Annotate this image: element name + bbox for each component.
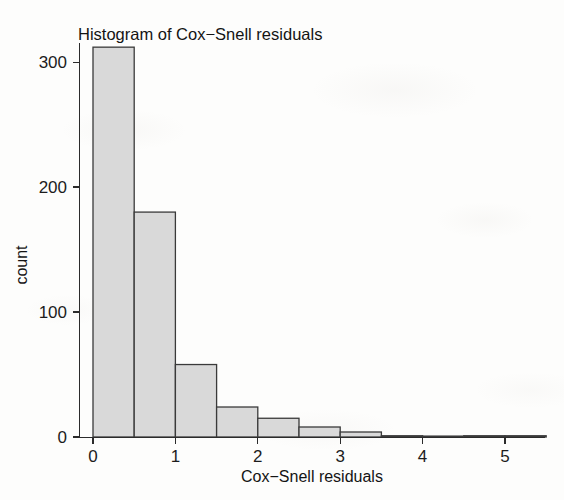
x-tick-label: 0 [88, 447, 97, 466]
x-tick-label: 3 [335, 447, 344, 466]
x-tick-label: 4 [418, 447, 427, 466]
histogram-bar [299, 427, 340, 437]
histogram-bar [340, 432, 381, 437]
histogram-bar [258, 418, 299, 437]
bars-group [93, 47, 546, 437]
x-tick-label: 1 [171, 447, 180, 466]
histogram-bar [175, 365, 216, 437]
y-tick-label: 100 [39, 303, 67, 322]
y-tick-label: 300 [39, 53, 67, 72]
histogram-plot: Histogram of Cox−Snell residuals 0100200… [0, 0, 564, 500]
x-tick-label: 2 [253, 447, 262, 466]
chart-title: Histogram of Cox−Snell residuals [78, 25, 322, 43]
y-axis-title: count [13, 245, 30, 285]
histogram-bar [93, 47, 134, 437]
y-tick-label: 0 [58, 428, 67, 447]
histogram-bar [134, 212, 175, 437]
x-axis-ticks: 012345 [88, 438, 509, 467]
histogram-bar [217, 407, 258, 437]
x-axis-title: Cox−Snell residuals [241, 468, 383, 485]
x-tick-label: 5 [500, 447, 509, 466]
y-axis-ticks: 0100200300 [39, 53, 80, 447]
chart-page: Histogram of Cox−Snell residuals 0100200… [0, 0, 564, 500]
y-tick-label: 200 [39, 178, 67, 197]
